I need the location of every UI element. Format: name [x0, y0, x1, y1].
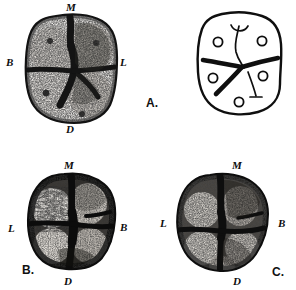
orientation-label-distal-c: D [233, 276, 241, 287]
cusp-circle-1 [213, 37, 222, 46]
orientation-label-buccal-c: B [278, 218, 286, 229]
orientation-label-distal-b: D [64, 276, 72, 287]
tooth-photograph-a [22, 13, 120, 125]
orientation-label-buccal-a: B [6, 57, 14, 68]
cusp-circle-3 [208, 73, 217, 82]
panel-label-a: A. [146, 97, 158, 109]
tooth-photograph-b [24, 172, 120, 272]
cusp-circle-2 [257, 36, 266, 45]
tooth-occlusal-figure: M B L D [0, 0, 296, 290]
groove-pattern-schematic-a [192, 10, 288, 120]
orientation-label-mesial-c: M [232, 160, 242, 171]
orientation-label-lingual-b: L [8, 223, 15, 234]
orientation-label-buccal-b: B [120, 222, 128, 233]
orientation-label-mesial-b: M [64, 160, 74, 171]
orientation-label-lingual-c: L [160, 218, 167, 229]
cusp-circle-5 [234, 97, 243, 106]
panel-label-b: B. [22, 264, 34, 276]
cusp-circle-4 [258, 71, 267, 80]
tooth-photograph-c [172, 172, 272, 276]
orientation-label-lingual-a: L [120, 57, 127, 68]
panel-label-c: C. [272, 266, 284, 278]
orientation-label-distal-a: D [66, 124, 74, 135]
orientation-label-mesial-a: M [66, 2, 76, 13]
